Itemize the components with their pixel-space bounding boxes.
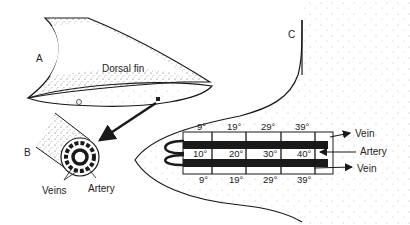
svg-text:29°: 29°: [263, 174, 278, 185]
diagram-canvas: A Dorsal fin B Veins Artery C: [0, 0, 410, 225]
svg-text:20°: 20°: [229, 148, 244, 159]
panel-label-c: C: [288, 29, 295, 40]
svg-text:30°: 30°: [263, 148, 278, 159]
panel-label-a: A: [36, 53, 43, 64]
connector-arrow: [100, 103, 156, 140]
svg-text:39°: 39°: [297, 174, 312, 185]
vein-top-label: Vein: [355, 128, 374, 139]
vein-bottom-label: Vein: [357, 163, 376, 174]
artery-bottom-band: [183, 159, 328, 167]
svg-text:19°: 19°: [229, 174, 244, 185]
svg-text:19°: 19°: [227, 121, 242, 132]
svg-text:10°: 10°: [193, 148, 208, 159]
svg-text:40°: 40°: [297, 148, 312, 159]
dorsal-fin-label: Dorsal fin: [102, 63, 144, 74]
svg-text:9°: 9°: [199, 174, 208, 185]
panel-a-dorsal-fin: A Dorsal fin: [28, 18, 212, 106]
panel-label-b: B: [24, 147, 31, 158]
panel-b-cross-section: B Veins Artery: [24, 113, 115, 196]
svg-text:29°: 29°: [261, 121, 276, 132]
panel-c-heat-exchanger: C Vein Artery Vein 9° 19° 29° 39° 10° 20…: [135, 0, 410, 225]
artery-label-b: Artery: [88, 183, 115, 194]
svg-text:9°: 9°: [197, 121, 206, 132]
svg-text:39°: 39°: [295, 121, 310, 132]
veins-label: Veins: [42, 185, 66, 196]
artery-label-c: Artery: [360, 146, 387, 157]
